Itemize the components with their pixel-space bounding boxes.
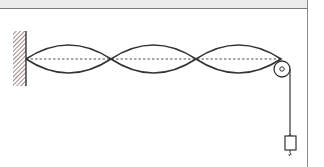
hanging-weight bbox=[285, 135, 296, 156]
wall bbox=[13, 31, 26, 86]
pulley-wheel bbox=[274, 61, 290, 77]
standing-wave-diagram bbox=[0, 0, 324, 167]
pulley bbox=[274, 61, 290, 77]
